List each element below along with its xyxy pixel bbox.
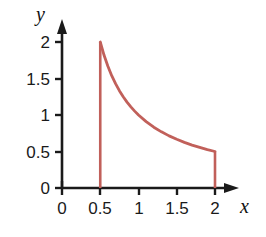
y-axis-label-2: 2 [41,34,50,51]
x-axis-label-1-5: 1.5 [165,200,189,217]
y-axis-label-1: 1 [41,107,50,124]
x-axis-label-0-5: 0.5 [88,200,112,217]
y-axis-label-0-5: 0.5 [26,144,50,161]
x-axis-label-0: 0 [57,200,66,217]
hyperbola-curve [100,42,215,152]
y-axis-label-0: 0 [41,180,50,197]
x-axis-title: x [240,196,249,216]
x-axis-label-1: 1 [134,200,143,217]
y-axis-label-1-5: 1.5 [26,71,50,88]
chart-figure: 2 1.5 1 0.5 0 0 0.5 1 1.5 2 y x [0,0,266,237]
y-axis-title: y [36,4,45,24]
x-axis-arrowhead [224,183,239,193]
x-axis-label-2: 2 [210,200,219,217]
y-axis-arrowhead [57,19,67,34]
